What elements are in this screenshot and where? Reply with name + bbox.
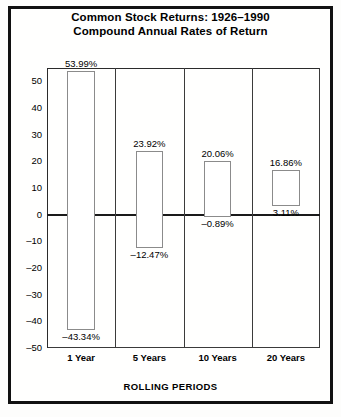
bar-high-label: 16.86%: [252, 158, 320, 168]
y-tick-label: 40: [12, 103, 42, 113]
y-axis-labels: 50403020100–10–20–30–40–50: [8, 68, 42, 348]
bar-2: [136, 151, 163, 248]
y-tick-label: –40: [12, 317, 42, 327]
bar-low-label: –12.47%: [115, 250, 183, 260]
bar-high-label: 20.06%: [184, 149, 252, 159]
category-label-4: 20 Years: [252, 352, 320, 364]
y-tick-label: –50: [12, 343, 42, 353]
chart-figure: Common Stock Returns: 1926–1990 Compound…: [0, 0, 341, 417]
bar-4: [272, 170, 299, 207]
y-tick-label: 0: [12, 210, 42, 220]
column-separator: [184, 68, 185, 348]
page-title: Common Stock Returns: 1926–1990: [0, 10, 341, 24]
y-tick-label: –10: [12, 237, 42, 247]
y-tick-label: –30: [12, 290, 42, 300]
category-label-2: 5 Years: [115, 352, 183, 364]
bar-column: 53.99%–43.34%: [47, 68, 115, 348]
bar-column: 20.06%–0.89%: [184, 68, 252, 348]
y-tick-label: 50: [12, 77, 42, 87]
bar-low-label: –0.89%: [184, 219, 252, 229]
x-axis-category-labels: 1 Year5 Years10 Years20 Years: [47, 352, 320, 368]
bar-low-label: –43.34%: [47, 332, 115, 342]
bar-column: 23.92%–12.47%: [115, 68, 183, 348]
category-label-3: 10 Years: [184, 352, 252, 364]
category-label-1: 1 Year: [47, 352, 115, 364]
bar-high-label: 23.92%: [115, 139, 183, 149]
column-separator: [252, 68, 253, 348]
bar-3: [204, 161, 231, 217]
bar-low-label: 3.11%: [252, 208, 320, 218]
plot-area: 53.99%–43.34%23.92%–12.47%20.06%–0.89%16…: [47, 68, 320, 348]
y-tick-label: 30: [12, 130, 42, 140]
column-separator: [115, 68, 116, 348]
y-tick-label: 10: [12, 183, 42, 193]
bar-column: 16.86%3.11%: [252, 68, 320, 348]
chart-subtitle: Compound Annual Rates of Return: [0, 24, 341, 38]
bar-high-label: 53.99%: [47, 59, 115, 69]
chart-title-block: Common Stock Returns: 1926–1990 Compound…: [0, 10, 341, 38]
y-tick-label: –20: [12, 263, 42, 273]
y-tick-label: 20: [12, 157, 42, 167]
x-axis-title: ROLLING PERIODS: [0, 381, 341, 392]
bar-1: [67, 71, 94, 331]
